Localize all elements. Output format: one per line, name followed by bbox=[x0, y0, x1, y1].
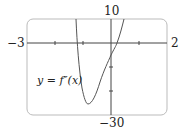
function-label: y = f″(x) bbox=[37, 74, 82, 87]
chart-plot bbox=[0, 0, 190, 134]
curve-f-double-prime bbox=[76, 19, 124, 104]
y-min-label: −30 bbox=[99, 117, 124, 129]
x-max-label: 2 bbox=[171, 37, 179, 49]
y-max-label: 10 bbox=[104, 5, 119, 17]
x-min-label: −3 bbox=[7, 37, 25, 49]
viewing-window-frame bbox=[27, 19, 167, 115]
